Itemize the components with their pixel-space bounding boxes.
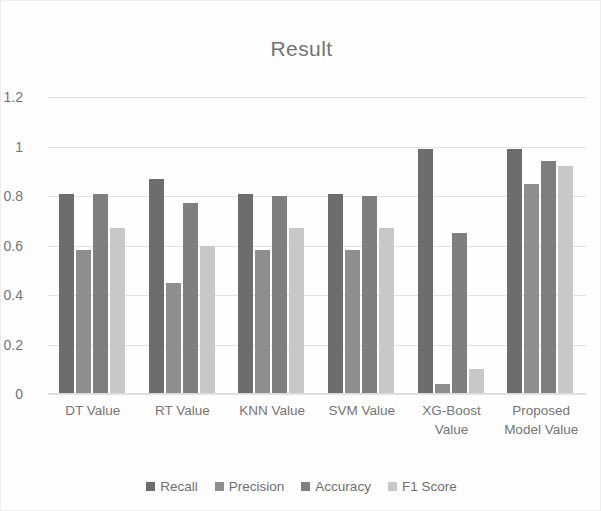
bar-group [507,97,575,394]
legend-item[interactable]: Accuracy [301,479,371,494]
bar-group [328,97,396,394]
bars-layer [48,97,586,394]
chart-legend: RecallPrecisionAccuracyF1 Score [1,479,601,494]
bar[interactable] [469,369,484,394]
legend-swatch-icon [215,482,224,491]
bar[interactable] [149,179,164,394]
x-axis-tick-label: Proposed Model Value [496,401,586,439]
legend-swatch-icon [388,482,397,491]
x-axis-tick-label: DT Value [48,401,138,420]
x-axis-tick-label: SVM Value [317,401,407,420]
legend-item[interactable]: Recall [146,479,198,494]
bar[interactable] [507,149,522,394]
bar[interactable] [379,228,394,394]
bar[interactable] [59,194,74,394]
y-axis-tick-label: 0.8 [0,188,23,204]
bar[interactable] [272,196,287,394]
bar[interactable] [289,228,304,394]
legend-item[interactable]: F1 Score [388,479,457,494]
bar[interactable] [166,283,181,394]
bar[interactable] [541,161,556,394]
bar[interactable] [452,233,467,394]
bar-group [238,97,306,394]
bar-group [59,97,127,394]
y-axis-tick-label: 1 [0,139,23,155]
legend-item[interactable]: Precision [215,479,285,494]
legend-swatch-icon [146,482,155,491]
chart-frame: Result 00.20.40.60.811.2 DT ValueRT Valu… [0,0,601,511]
x-axis-tick-label: KNN Value [227,401,317,420]
gridline [48,394,586,395]
plot-area: 00.20.40.60.811.2 [48,97,586,394]
bar[interactable] [200,246,215,395]
legend-label: Accuracy [315,479,371,494]
y-axis-tick-label: 0.4 [0,287,23,303]
bar-group [418,97,486,394]
y-axis-tick-label: 0.6 [0,238,23,254]
bar[interactable] [345,250,360,394]
bar[interactable] [418,149,433,394]
bar[interactable] [328,194,343,394]
legend-swatch-icon [301,482,310,491]
bar[interactable] [93,194,108,394]
x-axis-tick-label: RT Value [138,401,228,420]
bar[interactable] [76,250,91,394]
bar[interactable] [110,228,125,394]
x-axis-line [48,393,586,394]
y-axis-tick-label: 1.2 [0,89,23,105]
bar[interactable] [362,196,377,394]
legend-label: Precision [229,479,285,494]
bar-group [149,97,217,394]
legend-label: Recall [160,479,198,494]
chart-title: Result [1,37,601,61]
bar[interactable] [558,166,573,394]
bar[interactable] [238,194,253,394]
bar[interactable] [524,184,539,394]
x-axis-tick-label: XG-Boost Value [407,401,497,439]
y-axis-tick-label: 0.2 [0,337,23,353]
bar[interactable] [183,203,198,394]
legend-label: F1 Score [402,479,457,494]
bar[interactable] [255,250,270,394]
y-axis-tick-label: 0 [0,386,23,402]
x-axis-tick-labels: DT ValueRT ValueKNN ValueSVM ValueXG-Boo… [48,401,586,461]
